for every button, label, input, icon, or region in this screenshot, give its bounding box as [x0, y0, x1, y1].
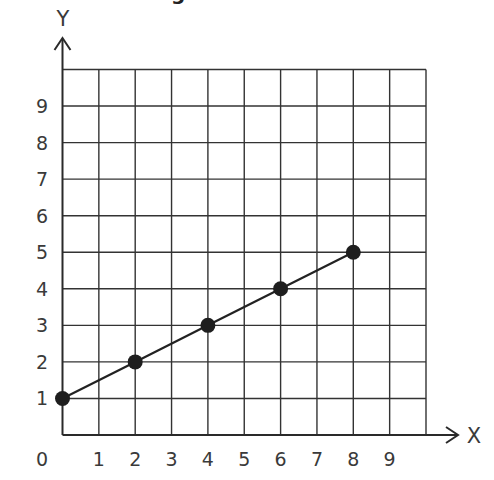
y-axis-label: Y: [56, 7, 70, 31]
x-tick-label: 8: [347, 448, 359, 470]
x-tick-label: 0: [36, 448, 48, 470]
x-tick-label: 5: [238, 448, 250, 470]
x-tick-label: 4: [202, 448, 214, 470]
line-chart: Y X 123456789 0123456789: [0, 0, 494, 480]
data-point: [346, 245, 361, 260]
data-point: [200, 318, 215, 333]
y-tick-label: 6: [36, 205, 48, 227]
y-tick-label: 7: [36, 168, 48, 190]
data-point: [55, 391, 70, 406]
data-point: [273, 281, 288, 296]
y-tick-label: 4: [36, 278, 48, 300]
y-tick-label: 2: [36, 351, 48, 373]
y-tick-label: 9: [36, 95, 48, 117]
data-point: [128, 354, 143, 369]
x-tick-label: 9: [384, 448, 396, 470]
y-tick-label: 5: [36, 241, 48, 263]
x-tick-label: 1: [93, 448, 105, 470]
y-tick-label: 8: [36, 132, 48, 154]
y-tick-labels: 123456789: [36, 95, 48, 409]
x-axis-label: X: [467, 424, 481, 448]
x-tick-label: 6: [275, 448, 287, 470]
grid-lines: [63, 70, 427, 436]
y-tick-label: 1: [36, 387, 48, 409]
x-tick-label: 3: [166, 448, 178, 470]
x-tick-labels: 0123456789: [36, 448, 396, 470]
x-tick-label: 2: [129, 448, 141, 470]
x-tick-label: 7: [311, 448, 323, 470]
y-tick-label: 3: [36, 314, 48, 336]
